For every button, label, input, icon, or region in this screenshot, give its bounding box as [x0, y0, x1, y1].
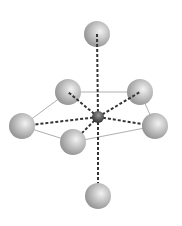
bond-eq-upper-right [98, 92, 140, 117]
bond-axial-top [97, 34, 98, 117]
center-metal-atom [92, 111, 104, 123]
front-atoms [9, 113, 168, 209]
central-atom [92, 111, 104, 123]
ligand-atom-eq-far-left [9, 113, 35, 139]
ligand-atom-eq-far-right [142, 113, 168, 139]
ligand-atom-axial-bottom [85, 183, 111, 209]
molecule-svg [0, 0, 182, 226]
dashed-bonds [22, 34, 155, 196]
molecule-diagram [0, 0, 182, 226]
ligand-atom-eq-front-left [60, 129, 86, 155]
